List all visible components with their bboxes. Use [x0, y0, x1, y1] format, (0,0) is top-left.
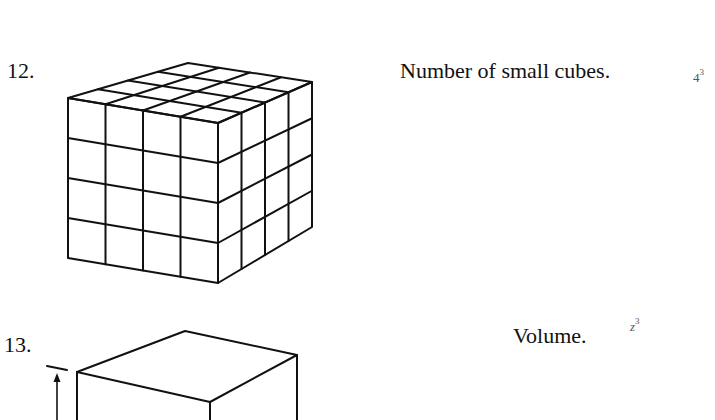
problem-13-prompt: Volume. [513, 323, 587, 349]
problem-12-prompt: Number of small cubes. [400, 58, 610, 84]
problem-13-answer: z3 [630, 318, 640, 335]
arrow-up-icon [54, 373, 61, 382]
problem-12-answer: 43 [693, 69, 704, 86]
answer-exponent: 3 [635, 316, 640, 326]
answer-exponent: 3 [700, 67, 705, 77]
problem-13-number: 13. [4, 332, 32, 358]
answer-base: 4 [693, 70, 700, 85]
